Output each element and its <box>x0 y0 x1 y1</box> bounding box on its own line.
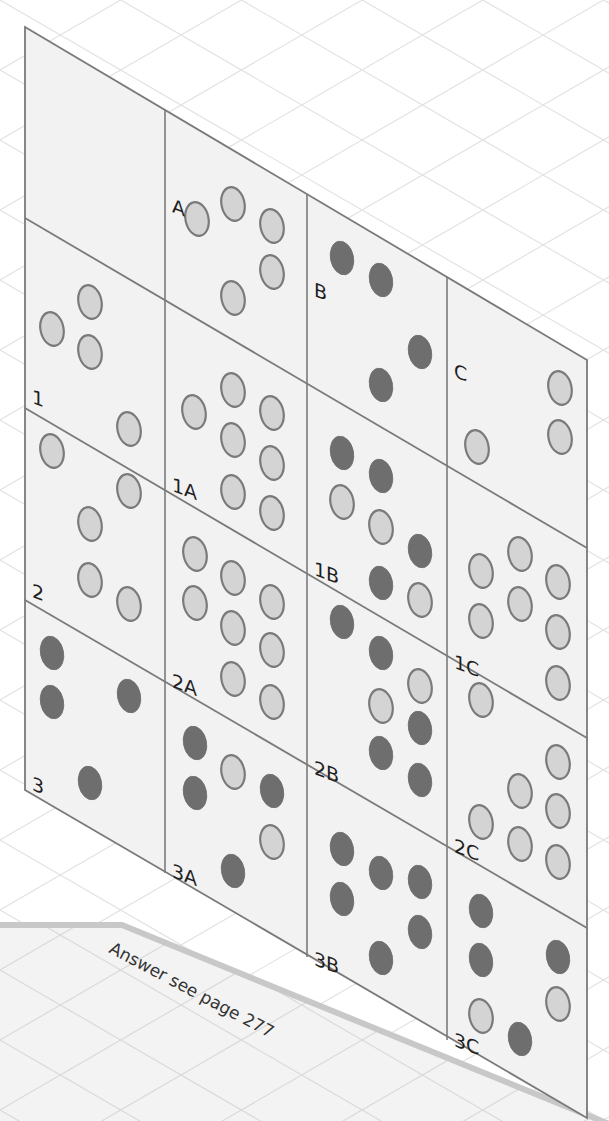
cell-label: B <box>314 279 327 306</box>
cell-label: 2 <box>32 580 44 607</box>
cell-label: 1 <box>32 386 44 413</box>
puzzle-illustration: Answer see page 277 ABC11A1B1C22A2B2C33A… <box>0 0 609 1121</box>
cell-label: 3 <box>32 773 44 800</box>
